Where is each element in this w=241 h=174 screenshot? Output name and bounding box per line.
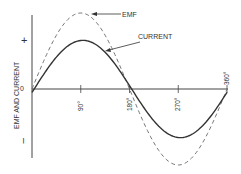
x-tick-label-180: 180° [126, 97, 133, 111]
x-tick-label-360: 360° [223, 71, 230, 85]
emf-label: EMF [122, 11, 137, 18]
y-axis-label: EMF AND CURRENT [13, 61, 20, 129]
plus-sign: + [21, 34, 27, 46]
current-label: CURRENT [138, 33, 173, 40]
emf-arrow-head [91, 12, 97, 16]
current-arrow-head [105, 48, 111, 52]
origin-label: 0 [20, 85, 24, 92]
emf-current-diagram: EMF AND CURRENT + – 0 90°180°270°360° EM… [0, 0, 241, 174]
current-arrow-line [109, 42, 140, 50]
x-tick-label-270: 270° [174, 97, 181, 111]
minus-sign: – [19, 138, 30, 144]
x-tick-label-90: 90° [77, 101, 84, 111]
